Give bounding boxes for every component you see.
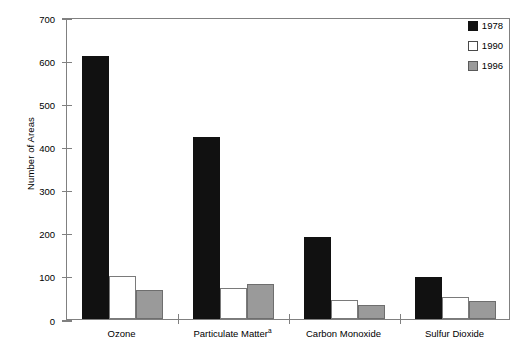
x-axis-label: Carbon Monoxide [288, 328, 399, 339]
x-axis-label: Particulate Mattera [177, 328, 288, 339]
bar[interactable] [304, 237, 331, 319]
legend-item: 1996 [468, 60, 503, 71]
bar-group [178, 19, 289, 319]
bar[interactable] [136, 290, 163, 319]
bar[interactable] [82, 56, 109, 319]
bar[interactable] [220, 288, 247, 319]
legend-item: 1978 [468, 20, 503, 31]
bar[interactable] [415, 277, 442, 319]
bar[interactable] [358, 305, 385, 319]
legend-label: 1996 [482, 60, 503, 71]
x-axis-separator [178, 314, 179, 324]
y-axis-tick-label: 600 [19, 55, 55, 70]
white-square-icon [468, 41, 478, 51]
y-axis-tick-label: 500 [19, 98, 55, 113]
bar[interactable] [109, 276, 136, 319]
legend-label: 1990 [482, 40, 503, 51]
y-axis-tick-label: 300 [19, 184, 55, 199]
x-axis-label: Ozone [66, 328, 177, 339]
y-axis-tick-label: 400 [19, 141, 55, 156]
y-axis-tick-label: 700 [19, 12, 55, 27]
bar[interactable] [469, 301, 496, 319]
x-axis-separator [289, 314, 290, 324]
footnote-marker: a [268, 327, 272, 334]
y-axis-tick-label: 100 [19, 270, 55, 285]
bars [289, 19, 400, 319]
x-axis-separator [400, 314, 401, 324]
plot-area: 7006005004003002001000 [66, 18, 510, 320]
bar-chart: Number of Areas 7006005004003002001000 O… [0, 0, 521, 350]
bar[interactable] [193, 137, 220, 319]
bars [67, 19, 178, 319]
bar-group [289, 19, 400, 319]
bar-group [67, 19, 178, 319]
legend-label: 1978 [482, 20, 503, 31]
black-square-icon [468, 21, 478, 31]
legend: 1978 1990 1996 [468, 20, 503, 71]
bar[interactable] [331, 300, 358, 319]
y-axis-tick-label: 0 [19, 314, 55, 329]
gray-square-icon [468, 61, 478, 71]
y-axis-tick-label: 200 [19, 227, 55, 242]
x-axis-label: Sulfur Dioxide [399, 328, 510, 339]
bar[interactable] [442, 297, 469, 319]
tick-mark [62, 320, 72, 321]
bar[interactable] [247, 284, 274, 319]
legend-item: 1990 [468, 40, 503, 51]
bars [178, 19, 289, 319]
